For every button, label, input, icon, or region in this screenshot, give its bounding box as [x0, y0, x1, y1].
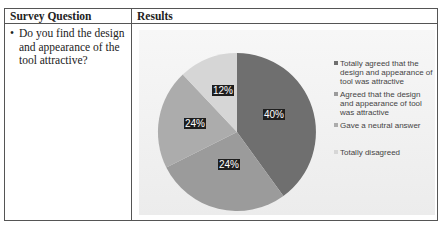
legend-label: Totally agreed that the design and appea… [340, 59, 433, 86]
legend-swatch-icon [334, 150, 338, 154]
survey-table: Survey Question Results • Do you find th… [4, 8, 438, 221]
header-divider [5, 23, 437, 24]
legend-swatch-icon [334, 123, 338, 127]
bullet-icon: • [10, 27, 14, 41]
legend-item: Agreed that the design and appearance of… [334, 90, 434, 117]
label-40: 40% [263, 109, 285, 120]
legend-item: Totally agreed that the design and appea… [334, 59, 434, 86]
legend-label: Totally disagreed [340, 148, 400, 157]
legend-label: Gave a neutral answer [340, 121, 421, 130]
legend-swatch-icon [334, 61, 338, 65]
legend-label: Agreed that the design and appearance of… [340, 90, 422, 117]
header-survey-question: Survey Question [10, 9, 91, 23]
legend-item: Totally disagreed [334, 148, 434, 157]
pie-chart: 40% 24% 24% 12% Totally agreed that the … [139, 30, 435, 215]
pie-graphic [139, 30, 335, 215]
label-24-agreed: 24% [218, 159, 240, 170]
header-results: Results [137, 9, 173, 23]
column-divider [131, 9, 132, 220]
label-24-neutral: 24% [184, 118, 206, 129]
label-12: 12% [212, 85, 234, 96]
legend-swatch-icon [334, 92, 338, 96]
chart-legend: Totally agreed that the design and appea… [334, 59, 434, 161]
survey-question-text: Do you find the design and appearance of… [10, 27, 128, 68]
legend-item: Gave a neutral answer [334, 121, 434, 130]
survey-question-cell: • Do you find the design and appearance … [10, 27, 128, 68]
